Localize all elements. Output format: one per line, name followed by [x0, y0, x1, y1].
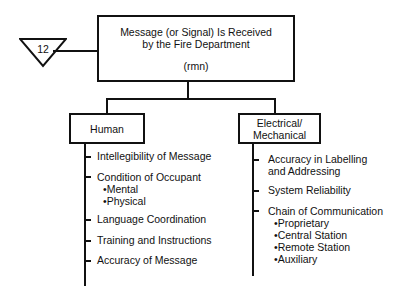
electrical-sub-central: •Central Station [274, 229, 347, 241]
electrical-sub-proprietary: •Proprietary [274, 217, 329, 229]
tick [253, 190, 259, 192]
electrical-title-line2: Mechanical [240, 129, 319, 141]
root-down-connector [187, 81, 189, 99]
electrical-sub-auxiliary: •Auxiliary [274, 253, 317, 265]
tick [85, 240, 91, 242]
tick [253, 159, 259, 161]
human-item-training: Training and Instructions [97, 234, 212, 246]
tick [85, 219, 91, 221]
tick [85, 176, 91, 178]
human-sub-mental: •Mental [103, 183, 138, 195]
root-box: Message (or Signal) Is Received by the F… [97, 15, 295, 82]
human-spine [84, 143, 86, 286]
triangle-label: 12 [34, 43, 52, 55]
human-item-accuracy: Accuracy of Message [97, 254, 197, 266]
human-box: Human [69, 113, 145, 144]
electrical-title-line1: Electrical/ [240, 117, 319, 129]
root-code: (rmn) [99, 60, 293, 72]
tick [253, 210, 259, 212]
human-sub-physical: •Physical [103, 195, 146, 207]
root-title-line1: Message (or Signal) Is Received [99, 26, 293, 38]
tick [85, 156, 91, 158]
electrical-item-chain: Chain of Communication [268, 205, 383, 217]
electrical-item-reliability: System Reliability [268, 184, 351, 196]
human-item-intellegibility: Intellegibility of Message [97, 150, 211, 162]
electrical-box: Electrical/ Mechanical [238, 113, 321, 144]
human-title: Human [71, 123, 143, 135]
triangle-connector [53, 50, 98, 52]
human-drop-connector [106, 98, 108, 114]
electrical-item-labelling-line1: Accuracy in Labelling [268, 153, 367, 165]
root-title-line2: by the Fire Department [99, 38, 293, 50]
electrical-item-labelling-line2: and Addressing [268, 165, 340, 177]
human-item-condition: Condition of Occupant [97, 171, 201, 183]
electrical-drop-connector [274, 98, 276, 114]
human-item-language: Language Coordination [97, 213, 206, 225]
branch-horizontal-connector [106, 98, 276, 100]
electrical-sub-remote: •Remote Station [274, 241, 350, 253]
tick [85, 260, 91, 262]
